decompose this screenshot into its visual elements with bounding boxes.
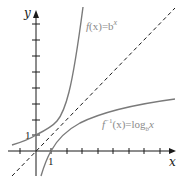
- function-inverse-chart: x 1 y 1 f(x)=bx f−1(x)=logbx: [0, 0, 183, 185]
- y-axis-arrow-icon: [33, 10, 39, 18]
- x-tick-label-1: 1: [48, 155, 54, 167]
- exponential-label: f(x)=bx: [86, 18, 118, 33]
- logarithm-curve: [41, 99, 175, 176]
- x-axis-label: x: [169, 155, 176, 169]
- svg-text:f−1(x)=logbx: f−1(x)=logbx: [102, 117, 154, 133]
- svg-text:f(x)=bx: f(x)=bx: [86, 18, 118, 33]
- y-axis-label: y: [23, 6, 31, 20]
- logarithm-label: f−1(x)=logbx: [102, 117, 154, 133]
- x-axis-arrow-icon: [169, 148, 176, 154]
- x-axis: x 1: [8, 148, 176, 169]
- exponential-curve: [12, 7, 83, 145]
